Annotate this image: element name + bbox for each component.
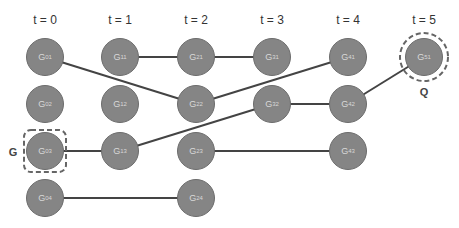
temporal-graph-diagram: t = 0t = 1t = 2t = 3t = 4t = 5 G01G02G03…: [0, 0, 459, 228]
g-label: G: [9, 146, 18, 158]
g-dashed-box: [24, 130, 66, 172]
q-dashed-circle: [400, 33, 448, 81]
highlight-layer: [0, 0, 459, 228]
q-label: Q: [420, 86, 429, 98]
